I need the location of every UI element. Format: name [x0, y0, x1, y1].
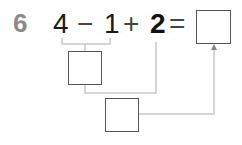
answer-box[interactable]	[196, 10, 231, 44]
step2-box[interactable]	[105, 98, 139, 132]
step1-box[interactable]	[68, 51, 102, 85]
